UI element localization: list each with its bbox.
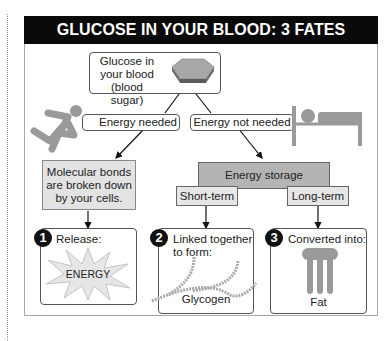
breakdown-line: are broken down bbox=[43, 179, 135, 192]
hexagon-molecule-icon bbox=[162, 57, 218, 89]
energy-burst-icon: ENERGY bbox=[44, 246, 132, 302]
fat-molecule-icon bbox=[300, 246, 340, 296]
glycogen-text: Glycogen bbox=[158, 293, 254, 306]
person-in-bed-icon bbox=[290, 106, 370, 148]
fate-1-number: 1 bbox=[34, 229, 52, 247]
bonds-broken-box: Molecular bonds are broken down by your … bbox=[42, 160, 136, 210]
energy-text: ENERGY bbox=[66, 268, 110, 280]
energy-needed-label: Energy needed bbox=[82, 114, 180, 131]
energy-not-needed-text: Energy not needed bbox=[193, 116, 290, 128]
fate-2-label-line: Linked together bbox=[173, 233, 252, 246]
energy-storage-text: Energy storage bbox=[225, 169, 303, 181]
glucose-line: (blood sugar) bbox=[94, 81, 160, 107]
short-term-box: Short-term bbox=[176, 186, 238, 206]
fate-1-label: Release: bbox=[56, 233, 101, 246]
glucose-line: your blood bbox=[94, 68, 160, 81]
fate-2-number: 2 bbox=[150, 229, 168, 247]
energy-storage-box: Energy storage bbox=[198, 162, 330, 189]
long-term-box: Long-term bbox=[287, 186, 349, 206]
long-term-text: Long-term bbox=[292, 190, 344, 202]
fate-3-number: 3 bbox=[265, 229, 283, 247]
glucose-box: Glucose in your blood (blood sugar) bbox=[89, 52, 221, 94]
breakdown-line: Molecular bonds bbox=[43, 166, 135, 179]
glucose-line: Glucose in bbox=[94, 55, 160, 68]
fat-text: Fat bbox=[270, 296, 367, 309]
short-term-text: Short-term bbox=[180, 190, 234, 202]
running-person-icon bbox=[30, 103, 90, 153]
energy-not-needed-label: Energy not needed bbox=[190, 114, 294, 131]
fate-3-label: Converted into: bbox=[288, 233, 366, 246]
energy-needed-text: Energy needed bbox=[99, 116, 177, 128]
breakdown-line: by your cells. bbox=[43, 192, 135, 205]
